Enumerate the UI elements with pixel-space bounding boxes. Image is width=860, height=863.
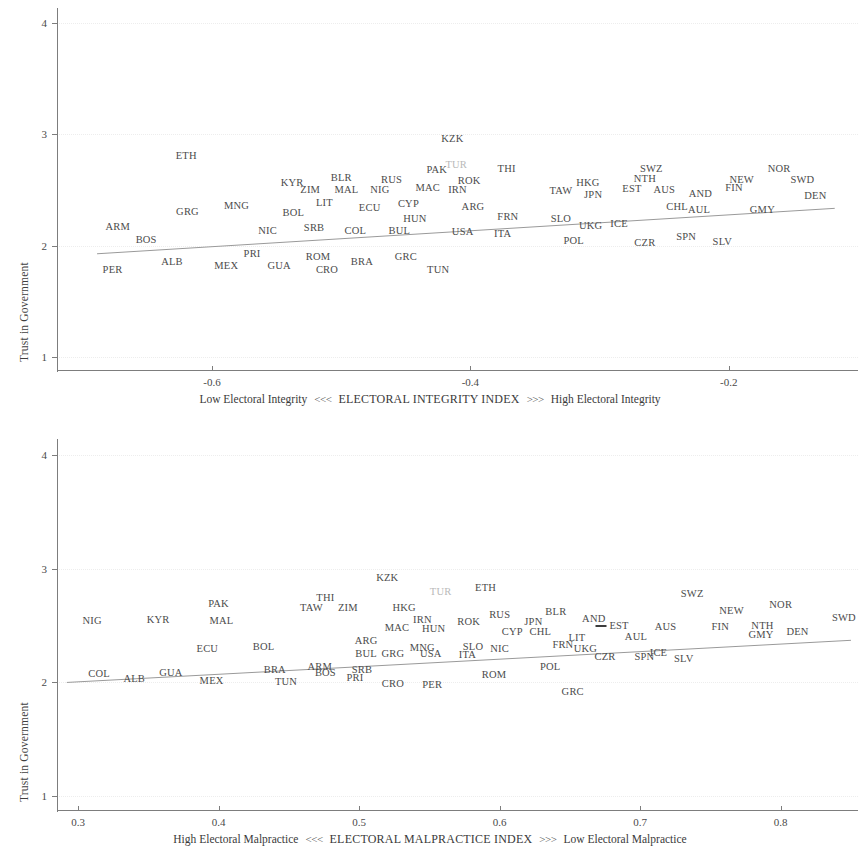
data-point-label: CRO [316, 265, 338, 276]
data-point-label: FRN [552, 640, 573, 651]
data-point-label: SLV [674, 653, 693, 664]
chart-panel-top: 1234-0.6-0.4-0.2Trust in GovernmentETHKZ… [0, 0, 860, 432]
data-point-label: KZK [441, 134, 463, 145]
data-point-label: BLR [331, 173, 352, 184]
data-point-label: HUN [422, 624, 445, 635]
x-axis-caption: Low Electoral Integrity<<<ELECTORAL INTE… [0, 392, 860, 407]
data-point-label: PRI [244, 249, 261, 260]
x-axis-caption-left: High Electoral Malpractice [173, 833, 298, 845]
data-point-label: CZR [595, 652, 616, 663]
data-point-label: UKG [579, 220, 602, 231]
data-point-label: PAK [427, 165, 448, 176]
data-point-label: LIT [316, 198, 333, 209]
x-axis-caption-left: Low Electoral Integrity [199, 393, 307, 405]
data-point-label: THI [498, 164, 516, 175]
data-point-label: ECU [359, 203, 381, 214]
data-point-label: MNG [224, 201, 249, 212]
data-point-label: TAW [549, 186, 572, 197]
data-point-label: BRA [351, 256, 373, 267]
data-point-label: BRA [264, 665, 286, 676]
data-point-label: CRO [382, 679, 404, 690]
est-marker-dash [596, 625, 607, 627]
data-point-label: ECU [197, 644, 219, 655]
data-point-label: SWD [832, 613, 856, 624]
data-point-label: RUS [489, 610, 510, 621]
data-point-label: ARG [462, 202, 485, 213]
data-point-label: MAL [209, 616, 233, 627]
data-point-label: HKG [392, 603, 415, 614]
x-axis-caption-arrow-right: >>> [532, 833, 563, 845]
data-point-label: GUA [159, 668, 182, 679]
data-point-label: ICE [610, 219, 628, 230]
data-point-label: PRI [346, 673, 363, 684]
data-point-label: AUS [653, 185, 675, 196]
data-point-label: ITA [494, 229, 511, 240]
data-point-label: NIC [490, 644, 509, 655]
data-point-label: GRC [562, 687, 584, 698]
x-axis-caption-arrow-left: <<< [307, 393, 338, 405]
data-point-label: BLR [545, 607, 566, 618]
data-point-label: CHL [666, 202, 688, 213]
data-point-label: MAC [385, 623, 410, 634]
data-point-label: FIN [725, 183, 743, 194]
data-point-label: ROK [457, 616, 480, 627]
data-point-label: USA [420, 649, 442, 660]
data-point-label: NOR [769, 600, 792, 611]
chart-panel-bottom: 12340.30.40.50.60.70.8Trust in Governmen… [0, 431, 860, 863]
data-point-label: ALB [123, 674, 145, 685]
data-point-label: AUL [688, 205, 710, 216]
data-point-label: NEW [719, 605, 744, 616]
data-point-label: ZIM [300, 185, 320, 196]
data-point-label: TUR [430, 587, 452, 598]
data-point-label: GRC [395, 251, 417, 262]
data-point-label: SWZ [681, 589, 704, 600]
data-point-label: SLO [551, 214, 571, 225]
data-point-label: DEN [786, 627, 808, 638]
x-axis-caption-arrow-left: <<< [298, 833, 329, 845]
x-axis-title: ELECTORAL INTEGRITY INDEX [338, 392, 519, 407]
data-point-label: GRG [176, 207, 199, 218]
data-point-label: SPN [634, 652, 654, 663]
data-point-label: CZR [634, 238, 655, 249]
data-point-label: USA [452, 227, 474, 238]
data-point-label: DEN [804, 190, 826, 201]
data-point-label: ALB [161, 256, 183, 267]
data-point-label: GMY [748, 630, 773, 641]
data-point-label: MEX [214, 261, 238, 272]
data-point-label: AND [689, 189, 712, 200]
data-point-label: HUN [403, 214, 426, 225]
data-point-label: CHL [530, 627, 552, 638]
data-point-label: ARG [355, 636, 378, 647]
x-axis-caption: High Electoral Malpractice<<<ELECTORAL M… [0, 832, 860, 847]
data-point-label: COL [345, 225, 367, 236]
data-point-label: ROM [482, 670, 507, 681]
data-point-label: ITA [459, 650, 476, 661]
data-point-label: SLV [713, 237, 732, 248]
data-point-label: COL [88, 669, 110, 680]
data-point-label: CYP [502, 627, 523, 638]
data-point-label: BOS [315, 668, 336, 679]
data-point-label: BOL [283, 208, 305, 219]
data-point-label: BUL [355, 649, 377, 660]
data-point-label: GUA [268, 261, 291, 272]
data-point-label: SRB [304, 223, 324, 234]
data-point-label: NIG [82, 616, 101, 627]
data-point-label: SPN [676, 231, 696, 242]
figure-root: 1234-0.6-0.4-0.2Trust in GovernmentETHKZ… [0, 0, 860, 863]
data-point-label: ETH [176, 151, 197, 162]
data-point-label: AUS [655, 621, 677, 632]
data-point-label: PAK [208, 599, 229, 610]
data-point-label: GMY [750, 205, 775, 216]
data-point-label: NIG [370, 185, 389, 196]
data-point-label: EST [622, 184, 641, 195]
data-point-label: CYP [398, 198, 419, 209]
data-point-label: NIC [258, 225, 277, 236]
data-point-label: MAC [416, 183, 441, 194]
data-point-label: IRN [448, 185, 467, 196]
data-point-label: AUL [625, 632, 647, 643]
data-point-label: KYR [147, 615, 170, 626]
data-point-label: ROM [306, 251, 331, 262]
data-point-label: BUL [389, 225, 411, 236]
data-point-label: PER [103, 265, 123, 276]
data-point-label: GRG [381, 649, 404, 660]
